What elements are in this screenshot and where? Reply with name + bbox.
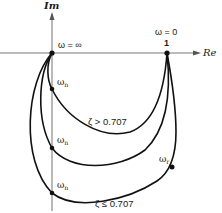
real-axis-arrow-icon (193, 51, 201, 56)
unity-value-label: 1 (164, 39, 169, 48)
origin-label: ω = ∞ (58, 41, 82, 50)
omega-n-point-3 (50, 191, 55, 196)
omega-n-label-2: ωn (57, 136, 68, 146)
omega-r-point (170, 165, 175, 170)
omega-n-label-3: ωn (57, 181, 68, 191)
imaginary-axis-arrow-icon (50, 12, 55, 20)
plot-svg (0, 0, 222, 213)
omega-r-label: ωr (159, 155, 169, 165)
real-axis-label: Re (203, 48, 216, 58)
curve-zeta-mid (41, 53, 169, 166)
omega-n-point-2 (50, 146, 55, 151)
unity-point (164, 50, 169, 55)
unity-frequency-label: ω = 0 (155, 28, 177, 37)
imaginary-axis-label: Im (44, 1, 59, 11)
origin-point (49, 50, 54, 55)
omega-n-label-1: ωn (57, 78, 68, 88)
zeta-low-annotation: ζ ≤ 0.707 (95, 199, 133, 209)
polar-plot-diagram: Im Re ω = ∞ ω = 0 1 ωn ωn ωn ωr ζ > 0.70… (0, 0, 222, 213)
zeta-high-annotation: ζ > 0.707 (88, 117, 127, 127)
omega-n-point-1 (50, 87, 55, 92)
